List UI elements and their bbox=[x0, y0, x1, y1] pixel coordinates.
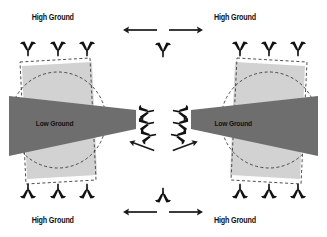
high-ground-top-right-label: High Ground bbox=[214, 13, 257, 23]
unit-marker bbox=[290, 41, 306, 56]
tactical-terrain-diagram: Low Ground Low Ground High Ground High G… bbox=[0, 0, 327, 237]
unit-marker bbox=[232, 184, 248, 199]
right-terrain-block: Low Ground bbox=[191, 58, 318, 184]
top-right-movement-arrow bbox=[169, 27, 203, 34]
top-right-unit-group bbox=[232, 41, 306, 56]
bottom-center-group bbox=[123, 188, 203, 216]
unit-marker bbox=[290, 184, 306, 199]
unit-marker bbox=[20, 41, 36, 56]
bottom-left-unit-group bbox=[20, 184, 95, 199]
diagram-canvas: Low Ground Low Ground High Ground High G… bbox=[0, 0, 327, 237]
bottom-right-movement-arrow bbox=[169, 209, 203, 216]
bottom-right-unit-group bbox=[232, 184, 306, 199]
bottom-left-movement-arrow bbox=[123, 209, 157, 216]
unit-marker bbox=[50, 41, 66, 56]
high-ground-bottom-right-label: High Ground bbox=[214, 216, 257, 226]
top-left-unit-group bbox=[20, 41, 95, 56]
unit-marker bbox=[232, 41, 248, 56]
top-center-group bbox=[123, 27, 203, 58]
low-ground-right-label: Low Ground bbox=[214, 120, 252, 128]
unit-marker bbox=[79, 41, 95, 56]
unit-marker bbox=[261, 184, 277, 199]
left-terrain-block: Low Ground bbox=[9, 58, 136, 184]
high-ground-top-left-label: High Ground bbox=[32, 13, 75, 23]
unit-marker bbox=[155, 188, 171, 203]
center-left-diagonal-arrow bbox=[128, 138, 155, 153]
top-left-movement-arrow bbox=[123, 27, 157, 34]
unit-marker bbox=[261, 41, 277, 56]
low-ground-left-label: Low Ground bbox=[36, 120, 74, 128]
unit-marker bbox=[155, 42, 171, 57]
unit-marker bbox=[20, 184, 36, 199]
unit-marker bbox=[79, 184, 95, 199]
high-ground-bottom-left-label: High Ground bbox=[32, 216, 75, 226]
center-right-diagonal-arrow bbox=[172, 138, 199, 153]
unit-marker bbox=[50, 184, 66, 199]
